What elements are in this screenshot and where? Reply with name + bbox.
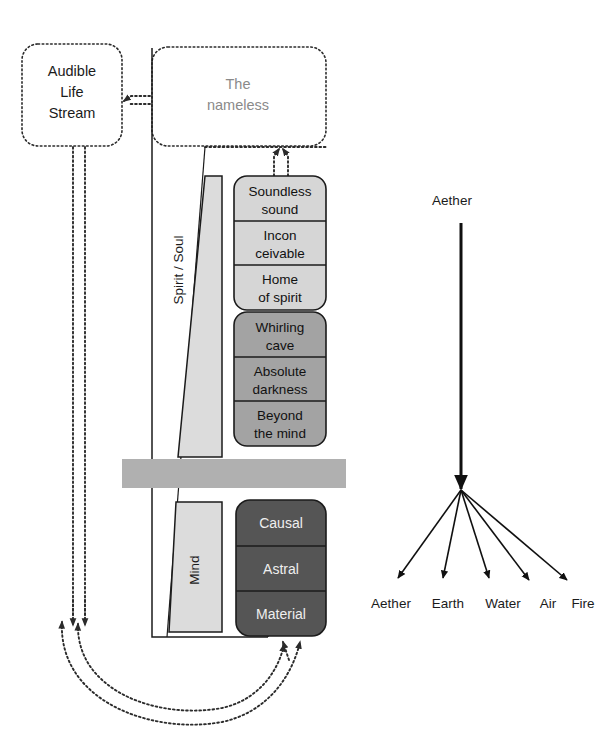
- connector-soundless-to-nameless-b: [283, 149, 288, 176]
- connector-nameless-to-als: [124, 96, 150, 101]
- the-nameless-label-2: nameless: [207, 97, 269, 113]
- horizontal-separator-bar: [122, 459, 346, 488]
- cell-home-of-spirit-line2: of spirit: [258, 290, 302, 305]
- cell-whirling-cave-line2: cave: [266, 338, 295, 353]
- cell-beyond-the-mind-line1: Beyond: [257, 408, 303, 423]
- cell-inconceivable-line1: Incon: [263, 228, 296, 243]
- cell-absolute-darkness-line2: darkness: [253, 382, 308, 397]
- branch-arrow-fire: [461, 490, 567, 580]
- audible-life-stream-label-2: Life: [60, 84, 83, 100]
- element-label-aether: Aether: [371, 596, 411, 611]
- cell-material: Material: [256, 606, 306, 622]
- the-nameless-label-1: The: [226, 76, 251, 92]
- cell-inconceivable-line2: ceivable: [255, 246, 305, 261]
- element-label-air: Air: [540, 596, 557, 611]
- spirit-soul-label: Spirit / Soul: [171, 235, 186, 304]
- cell-beyond-the-mind-line2: the mind: [254, 426, 306, 441]
- cell-whirling-cave-line1: Whirling: [256, 320, 305, 335]
- cell-astral: Astral: [263, 561, 299, 577]
- cell-absolute-darkness-line1: Absolute: [254, 364, 307, 379]
- audible-life-stream-label-3: Stream: [49, 105, 96, 121]
- diagram-canvas: Audible Life Stream The nameless Spirit …: [0, 0, 610, 740]
- cell-causal: Causal: [259, 515, 303, 531]
- branch-arrow-air: [461, 490, 529, 580]
- element-label-earth: Earth: [432, 596, 464, 611]
- connector-soundless-to-nameless-a: [274, 149, 279, 176]
- cell-soundless-sound-line2: sound: [262, 202, 299, 217]
- spiritual-cosmology-diagram: Audible Life Stream The nameless Spirit …: [0, 0, 610, 740]
- cell-soundless-sound-line1: Soundless: [248, 184, 311, 199]
- audible-life-stream-label-1: Audible: [48, 63, 96, 79]
- mind-label: Mind: [187, 555, 202, 584]
- cell-home-of-spirit-line1: Home: [262, 272, 298, 287]
- element-label-water: Water: [485, 596, 521, 611]
- aether-source-label: Aether: [432, 193, 472, 208]
- element-label-fire: Fire: [571, 596, 594, 611]
- branch-arrow-water: [461, 490, 489, 578]
